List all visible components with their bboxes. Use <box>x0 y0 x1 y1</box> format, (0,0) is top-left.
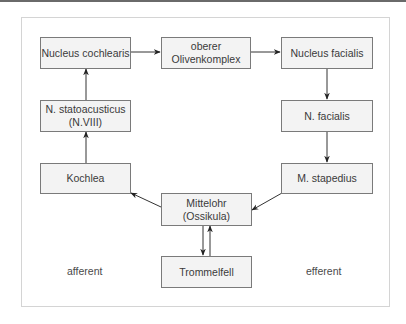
node-n-facialis: N. facialis <box>281 100 373 132</box>
node-kochlea: Kochlea <box>40 163 131 194</box>
node-trommelfell: Trommelfell <box>161 256 252 288</box>
node-mittelohr: Mittelohr (Ossikula) <box>161 193 252 226</box>
node-m-stapedius: M. stapedius <box>281 163 373 194</box>
node-nucleus-facialis: Nucleus facialis <box>281 37 373 69</box>
node-oberer-olivenkomplex: oberer Olivenkomplex <box>161 37 251 69</box>
node-nucleus-cochlearis: Nucleus cochlearis <box>40 37 131 69</box>
label-efferent: efferent <box>306 265 341 277</box>
node-n-statoacusticus: N. statoacusticus (N.VIII) <box>40 100 131 132</box>
label-afferent: afferent <box>67 265 102 277</box>
top-rule <box>0 0 406 2</box>
